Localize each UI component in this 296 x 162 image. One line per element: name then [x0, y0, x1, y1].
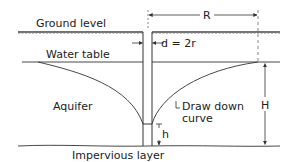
drawdown-leader: [176, 101, 180, 108]
impervious-layer-line: [18, 145, 280, 146]
ground-level-line: [18, 32, 280, 33]
well-water-depth-label: h: [162, 128, 169, 141]
radius-label: R: [203, 9, 211, 22]
water-table-label: Water table: [46, 48, 110, 61]
aquifer-label: Aquifer: [53, 100, 93, 113]
well: [143, 32, 152, 146]
well-drawdown-diagram: Ground level Water table Aquifer Impervi…: [0, 0, 296, 162]
ground-level-label: Ground level: [36, 17, 106, 30]
aquifer-thickness-label: H: [261, 99, 269, 112]
drawdown-curve-left: [38, 62, 143, 124]
drawdown-curve-label-2: curve: [182, 112, 213, 125]
impervious-layer-label: Impervious layer: [72, 149, 165, 162]
well-diameter-label: d = 2r: [161, 37, 196, 50]
